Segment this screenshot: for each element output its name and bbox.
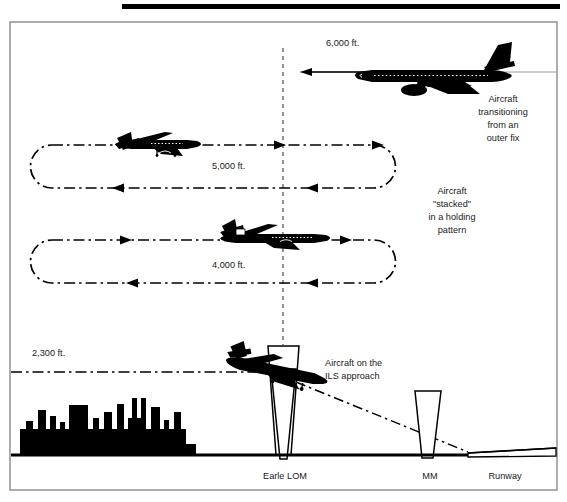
- svg-text:Aircraft: Aircraft: [488, 94, 518, 104]
- top-rule: [122, 4, 560, 9]
- label-earle-lom: Earle LOM: [263, 471, 307, 481]
- svg-text:from an: from an: [487, 120, 518, 130]
- svg-text:in a holding: in a holding: [429, 212, 476, 222]
- alt-4000-label: 4,000 ft.: [212, 260, 245, 270]
- alt-6000-label: 6,000 ft.: [326, 38, 359, 48]
- svg-text:ILS approach: ILS approach: [325, 371, 380, 381]
- alt-5000-label: 5,000 ft.: [212, 161, 245, 171]
- svg-text:"stacked": "stacked": [433, 199, 471, 209]
- alt-2300-label: 2,300 ft.: [32, 348, 65, 358]
- svg-text:Aircraft on the: Aircraft on the: [325, 358, 382, 368]
- ils-approach-diagram: 6,000 ft. Aircraft transitioning from an…: [0, 0, 567, 502]
- label-mm: MM: [422, 471, 437, 481]
- svg-text:transitioning: transitioning: [478, 107, 528, 117]
- svg-text:outer fix: outer fix: [487, 133, 520, 143]
- svg-text:pattern: pattern: [438, 225, 467, 235]
- svg-text:Aircraft: Aircraft: [437, 186, 467, 196]
- label-runway: Runway: [488, 471, 522, 481]
